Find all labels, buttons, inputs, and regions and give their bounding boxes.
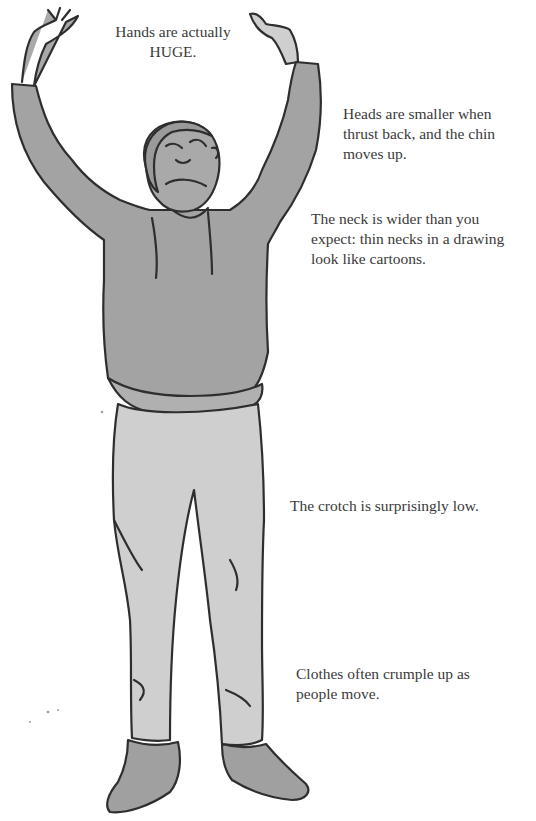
annotation-crotch: The crotch is surprisingly low. — [290, 496, 479, 516]
annotation-head: Heads are smaller when thrust back, and … — [343, 104, 495, 164]
annotation-clothes-line-2: people move. — [296, 684, 470, 704]
trousers — [113, 404, 264, 745]
annotation-neck: The neck is wider than you expect: thin … — [311, 209, 504, 269]
drawing-page: Hands are actually HUGE. Heads are small… — [0, 0, 536, 821]
right-hand — [250, 14, 298, 64]
annotation-neck-line-3: look like cartoons. — [311, 249, 504, 269]
annotation-clothes-line-1: Clothes often crumple up as — [296, 664, 470, 684]
left-shoe — [107, 740, 180, 812]
annotation-neck-line-1: The neck is wider than you — [311, 209, 504, 229]
right-shoe — [222, 744, 308, 800]
left-hand — [22, 8, 78, 86]
sweatshirt — [12, 62, 321, 399]
annotation-hands: Hands are actually HUGE. — [98, 22, 248, 62]
annotation-hands-line-2: HUGE. — [98, 42, 248, 62]
annotation-head-line-3: moves up. — [343, 144, 495, 164]
annotation-crotch-line-1: The crotch is surprisingly low. — [290, 496, 479, 516]
annotation-neck-line-2: expect: thin necks in a drawing — [311, 229, 504, 249]
annotation-hands-line-1: Hands are actually — [98, 22, 248, 42]
annotation-head-line-2: thrust back, and the chin — [343, 124, 495, 144]
annotation-clothes: Clothes often crumple up as people move. — [296, 664, 470, 704]
annotation-head-line-1: Heads are smaller when — [343, 104, 495, 124]
